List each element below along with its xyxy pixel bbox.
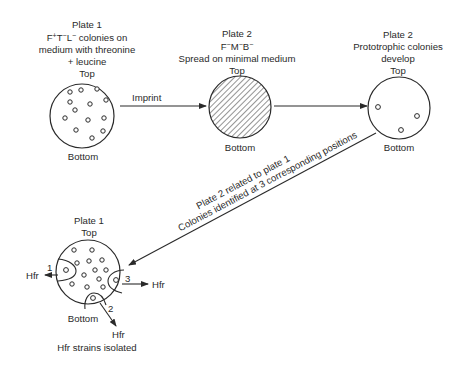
plate2-medium-line: Spread on minimal medium <box>179 53 296 64</box>
colony-icon <box>82 273 86 277</box>
plate1-hfr-bottom-label: Bottom <box>68 313 98 324</box>
imprint-label: Imprint <box>132 92 162 103</box>
colony-icon <box>73 108 77 112</box>
colony-icon <box>74 128 78 132</box>
colony-icon <box>100 258 104 262</box>
prototrophic-colony-icon <box>399 128 404 133</box>
plate2-result-title: Plate 2 <box>383 29 413 40</box>
plate2-title: Plate 2 <box>222 28 252 39</box>
hfr-isolation-diagram: Plate 1 F+T−L− colonies on medium with t… <box>0 0 470 371</box>
plate2-result-top-label: Top <box>390 65 405 76</box>
plate1-hfr-title: Plate 1 <box>74 215 104 226</box>
colony-icon <box>68 90 72 94</box>
colony-icon <box>79 88 83 92</box>
colony-icon <box>70 282 74 286</box>
colony-icon <box>101 129 105 133</box>
colony-icon <box>90 248 94 252</box>
colony-icon <box>72 248 76 252</box>
position-2-number: 2 <box>108 303 113 314</box>
position-1-number: 1 <box>47 262 52 273</box>
position-3-number: 3 <box>125 273 130 284</box>
selected-colony-icon <box>91 296 96 301</box>
plate1-hfr-group: Plate 1 Top 1 Hfr <box>26 215 166 353</box>
colony-icon <box>97 277 101 281</box>
plate1-bottom-label: Bottom <box>68 151 98 162</box>
imprint-arrow-group: Imprint <box>120 92 206 106</box>
plate2-hatched-dish <box>209 76 271 138</box>
plate1-top-label: Top <box>79 68 94 79</box>
plate2-spread-group: Plate 2 F−M−B− Spread on minimal medium … <box>179 28 296 153</box>
plate1-initial-group: Plate 1 F+T−L− colonies on medium with t… <box>39 19 136 162</box>
colony-icon <box>101 285 105 289</box>
position-1-hfr-label: Hfr <box>26 270 40 281</box>
selected-colony-icon <box>114 278 119 283</box>
hfr-caption: Hfr strains isolated <box>57 342 136 353</box>
colony-icon <box>85 285 89 289</box>
colony-icon <box>95 87 99 91</box>
plate1-hfr-top-label: Top <box>81 227 96 238</box>
prototrophic-colony-icon <box>376 105 381 110</box>
colony-icon <box>63 116 67 120</box>
colony-icon <box>88 102 92 106</box>
plate2-result-bottom-label: Bottom <box>384 142 414 153</box>
colony-icon <box>104 268 108 272</box>
plate2-genotype: F−M−B− <box>221 41 254 52</box>
colony-icon <box>102 116 106 120</box>
plate1-medium-line: medium with threonine <box>39 44 136 55</box>
colony-icon <box>93 268 97 272</box>
colony-icon <box>90 136 94 140</box>
plate1-genotype: F+T−L− colonies on <box>47 32 128 43</box>
colony-icon <box>104 98 108 102</box>
plate2-result-line1: Prototrophic colonies <box>353 41 443 52</box>
plate1-supplement-line: + leucine <box>68 56 107 67</box>
position-3-hfr-label: Hfr <box>152 279 166 290</box>
prototrophic-colony-icon <box>415 114 420 119</box>
plate2-bottom-label: Bottom <box>225 142 255 153</box>
colony-icon <box>68 100 72 104</box>
position-2-hfr-label: Hfr <box>112 329 126 340</box>
plate2-top-label: Top <box>229 65 244 76</box>
colony-icon <box>75 261 79 265</box>
plate1-title: Plate 1 <box>72 19 102 30</box>
selected-colony-icon <box>64 268 69 273</box>
plate2-result-line2: develop <box>381 53 415 64</box>
plate2-result-group: Plate 2 Prototrophic colonies develop To… <box>353 29 443 153</box>
colony-icon <box>86 118 90 122</box>
colony-icon <box>87 259 91 263</box>
relate-label-line2: Colonies identified at 3 corresponding p… <box>176 129 359 234</box>
